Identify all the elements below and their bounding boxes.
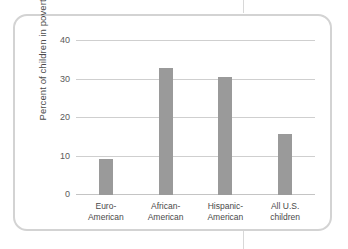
y-tick-label-0: 0	[65, 189, 70, 199]
x-tick-label: All U.S.children	[270, 201, 300, 222]
bar-group: Euro-American	[76, 41, 136, 195]
page-guide-bottom	[243, 231, 244, 249]
bar	[159, 68, 173, 195]
bar-group: Hispanic-American	[196, 41, 256, 195]
y-tick-label-20: 20	[60, 112, 70, 122]
y-tick-label-10: 10	[60, 151, 70, 161]
plot-area: 010203040 Euro-AmericanAfrican-AmericanH…	[76, 41, 315, 195]
bar-series: Euro-AmericanAfrican-AmericanHispanic-Am…	[76, 41, 315, 195]
figure-card: Percent of children in poverty 010203040…	[13, 14, 332, 231]
bar	[278, 134, 292, 195]
x-tick-label: Euro-American	[88, 201, 124, 222]
bar-group: African-American	[136, 41, 196, 195]
x-tick-label: Hispanic-American	[207, 201, 243, 222]
y-tick-label-40: 40	[60, 35, 70, 45]
y-tick-label-30: 30	[60, 74, 70, 84]
y-axis-title: Percent of children in poverty	[37, 0, 48, 132]
x-tick-label: African-American	[148, 201, 184, 222]
bar	[99, 159, 113, 195]
bar	[218, 77, 232, 195]
page-guide-top	[243, 0, 244, 13]
bar-chart: Percent of children in poverty 010203040…	[15, 16, 330, 229]
bar-group: All U.S.children	[255, 41, 315, 195]
